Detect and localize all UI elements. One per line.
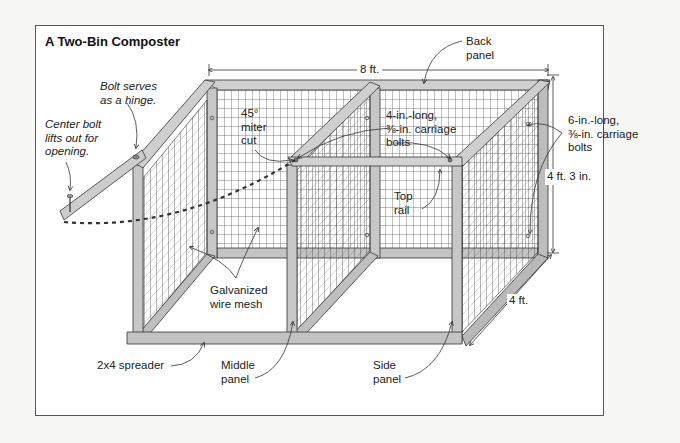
label-middle-panel: Middle panel [221,359,255,386]
label-top-rail: Top rail [394,190,413,217]
hinge-bolt-icon [133,155,139,159]
label-back-panel: Back panel [466,35,494,62]
composter-illustration [0,0,680,443]
bolt-icon [448,158,452,162]
front-top-rail [288,157,462,166]
leader-spreader [171,343,204,366]
dimension-width: 8 ft. [357,63,382,77]
left-side-panel [133,80,215,341]
leader-back-panel [424,41,462,83]
leader-side-panel [405,322,452,378]
front-right-post [452,165,462,343]
label-carriage-bolts-6in: 6-in.-long, ⅜-in. carriage bolts [568,114,638,155]
dimension-depth: 4 ft. [507,294,530,308]
back-middle-post [370,88,380,258]
front-middle-post [287,165,297,341]
label-miter-cut: 45° miter cut [241,107,267,148]
leader-hinge [127,103,137,148]
label-side-panel: Side panel [373,359,401,386]
spreader-2x4 [127,332,462,344]
dimension-height: 4 ft. 3 in. [545,169,593,185]
back-left-post [207,88,217,258]
label-spreader: 2x4 spreader [97,359,164,373]
label-wire-mesh: Galvanized wire mesh [210,284,268,311]
front-left-post [133,165,143,341]
leader-center-bolt [66,162,71,190]
label-center-bolt: Center bolt lifts out for opening. [45,118,101,159]
label-carriage-bolts-4in: 4-in.-long, ⅜-in. carriage bolts [386,109,456,150]
center-bolt-head-icon [67,195,73,198]
label-bolt-hinge: Bolt serves as a hinge. [100,80,157,107]
